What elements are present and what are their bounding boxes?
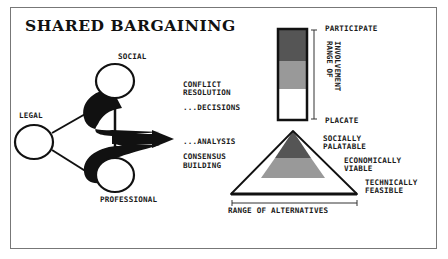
placate-label: PLACATE <box>325 116 358 125</box>
socially-palatable-label-line2: PALATABLE <box>323 142 366 151</box>
conflict-resolution-label-line2: RESOLUTION <box>183 88 231 97</box>
pyramid-mid-band <box>261 158 325 178</box>
legal-circle <box>15 125 53 159</box>
range-of-alternatives-label: RANGE OF ALTERNATIVES <box>228 206 328 215</box>
social-label: SOCIAL <box>118 52 147 61</box>
involvement-bar-low <box>278 89 307 120</box>
involvement-bar-high <box>278 29 307 61</box>
participate-label: PARTICIPATE <box>325 24 378 33</box>
decisions-label: ...DECISIONS <box>183 103 240 112</box>
diagram-graphics <box>0 0 448 259</box>
involvement-bar-mid <box>278 61 307 89</box>
legal-professional-connector <box>52 150 87 172</box>
range-of-involvement-label-line2: INVOLVEMENT <box>333 41 342 91</box>
legal-label: LEGAL <box>19 111 43 120</box>
professional-circle <box>96 158 134 192</box>
consensus-building-label-line2: BUILDING <box>183 161 221 170</box>
economically-viable-label-line2: VIABLE <box>344 164 373 173</box>
technically-feasible-label-line2: FEASIBLE <box>365 186 403 195</box>
pyramid-base-band <box>231 178 357 194</box>
professional-label: PROFESSIONAL <box>100 195 157 204</box>
legal-social-connector <box>52 113 87 133</box>
social-circle <box>96 64 134 98</box>
analysis-label: ...ANALYSIS <box>183 137 236 146</box>
consensus-building-label-line1: CONSENSUS <box>183 152 226 161</box>
